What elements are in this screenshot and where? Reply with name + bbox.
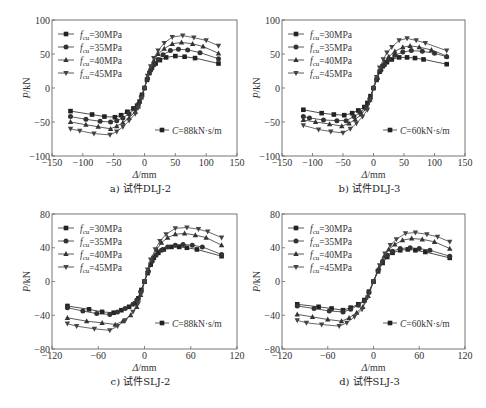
data-point — [193, 56, 198, 61]
y-tick-label: 80 — [40, 209, 50, 220]
legend: fcu=30MPafcu=35MPafcu=40MPafcu=45MPa — [288, 30, 353, 81]
data-point — [327, 309, 332, 314]
data-point — [107, 133, 112, 138]
data-point — [216, 50, 221, 55]
damping-annotation: C=60kN·s/m — [383, 319, 450, 329]
y-tick-label: 50 — [270, 49, 280, 60]
annotation-label: C=88kN·s/m — [172, 319, 222, 329]
data-point — [176, 47, 181, 52]
chart-b: −150−100−50050100150−100−50050100Δ/mmP/k… — [251, 15, 473, 195]
legend-marker — [294, 45, 299, 50]
y-tick-label: −100 — [29, 151, 50, 162]
chart-a: −150−100−50050100150−100−50050100Δ/mmP/k… — [21, 15, 245, 195]
figure-canvas: −150−100−50050100150−100−50050100Δ/mmP/k… — [0, 0, 486, 408]
y-axis-label: P/kN — [251, 77, 262, 99]
data-point — [120, 120, 125, 125]
data-point — [219, 252, 224, 257]
x-tick-label: 100 — [427, 157, 442, 168]
data-point — [447, 246, 452, 251]
data-point — [344, 118, 349, 123]
x-axis-label: Δ/mm — [360, 169, 385, 180]
data-point — [400, 49, 405, 54]
data-point — [405, 55, 410, 60]
damping-annotation: C=60kN·s/m — [383, 126, 450, 136]
legend: fcu=30MPafcu=35MPafcu=40MPafcu=45MPa — [58, 224, 123, 275]
data-point — [352, 315, 357, 320]
y-tick-label: 40 — [270, 242, 280, 253]
data-point — [319, 111, 324, 116]
data-point — [409, 48, 414, 53]
y-tick-label: 0 — [45, 276, 50, 287]
annotation-marker — [160, 321, 165, 326]
legend-label: fcu=30MPa — [310, 224, 353, 236]
data-point — [295, 312, 300, 317]
y-tick-label: 100 — [265, 15, 280, 26]
data-point — [107, 312, 112, 317]
data-point — [216, 61, 221, 66]
data-point — [68, 109, 73, 114]
chart-caption: d) 试件SLJ-3 — [339, 375, 400, 387]
data-point — [161, 52, 166, 57]
legend: fcu=30MPafcu=35MPafcu=40MPafcu=45MPa — [288, 224, 353, 275]
data-point — [348, 127, 353, 132]
data-point — [417, 246, 422, 251]
chart-d: −120−60060120−80−4004080Δ/mmP/kNd) 试件SLJ… — [251, 209, 473, 388]
data-point — [123, 306, 128, 311]
x-axis-label: Δ/mm — [131, 169, 156, 180]
x-tick-label: −60 — [320, 350, 336, 361]
data-point — [356, 303, 361, 308]
y-tick-label: 40 — [40, 242, 50, 253]
data-point — [200, 244, 205, 249]
data-point — [336, 324, 341, 329]
legend-marker — [64, 45, 69, 50]
data-point — [90, 112, 95, 117]
annotation-label: C=60kN·s/m — [400, 319, 450, 329]
y-axis-label: P/kN — [21, 77, 32, 99]
x-tick-label: −100 — [73, 157, 94, 168]
data-point — [334, 118, 339, 123]
data-point — [182, 54, 187, 59]
annotation-label: C=88kN·s/m — [172, 126, 222, 136]
data-point — [219, 242, 224, 247]
data-point — [162, 46, 167, 51]
data-point — [94, 311, 99, 316]
data-point — [80, 309, 85, 314]
data-point — [216, 56, 221, 61]
data-point — [332, 112, 337, 117]
legend-label: fcu=30MPa — [310, 30, 353, 42]
data-point — [170, 35, 175, 40]
data-point — [397, 55, 402, 60]
x-tick-label: 0 — [142, 350, 147, 361]
legend-marker — [64, 239, 69, 244]
data-point — [185, 245, 190, 250]
y-tick-label: −100 — [259, 151, 280, 162]
data-point — [447, 240, 452, 245]
data-point — [65, 315, 70, 320]
legend-label: fcu=35MPa — [310, 43, 353, 55]
x-tick-label: 150 — [458, 157, 473, 168]
x-tick-label: 0 — [371, 157, 376, 168]
data-point — [427, 248, 432, 253]
y-tick-label: 50 — [40, 49, 50, 60]
legend-label: fcu=35MPa — [310, 237, 353, 249]
data-point — [408, 245, 413, 250]
legend: fcu=30MPafcu=35MPafcu=40MPafcu=45MPa — [58, 30, 123, 81]
x-tick-label: 0 — [371, 350, 376, 361]
annotation-marker — [388, 128, 393, 133]
data-point — [216, 44, 221, 49]
x-tick-label: −50 — [106, 157, 122, 168]
data-point — [168, 48, 173, 53]
data-point — [68, 119, 73, 124]
chart-caption: a) 试件DLJ-2 — [110, 182, 171, 194]
chart-c: −120−60060120−80−4004080Δ/mmP/kNc) 试件SLJ… — [21, 209, 245, 388]
annotation-marker — [388, 321, 393, 326]
legend-label: fcu=30MPa — [80, 30, 123, 42]
y-axis-label: P/kN — [251, 271, 262, 293]
x-tick-label: 60 — [414, 350, 424, 361]
x-tick-label: 100 — [199, 157, 214, 168]
data-point — [423, 250, 428, 255]
data-point — [130, 302, 135, 307]
legend-marker — [294, 226, 299, 231]
chart-caption: b) 试件DLJ-3 — [339, 182, 401, 194]
data-point — [392, 53, 397, 58]
